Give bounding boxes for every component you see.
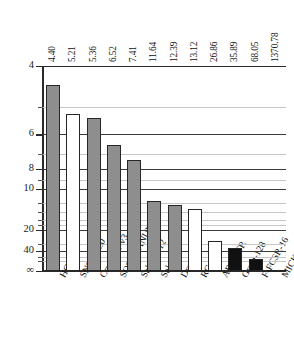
- value-label: 68.05: [250, 42, 260, 62]
- y-tick-major: [36, 271, 43, 272]
- y-tick-minor: [38, 180, 43, 181]
- bar-dragon: [168, 205, 182, 271]
- bar-sosemanuk: [107, 145, 121, 271]
- y-tick-minor: [38, 212, 43, 213]
- y-axis-tick-label: 6: [0, 127, 34, 138]
- value-label: 5.36: [88, 46, 98, 62]
- value-label: 1370.78: [270, 32, 280, 62]
- y-axis-tick-label: 4: [0, 59, 34, 70]
- bar-chart-figure: 4.405.215.366.527.4111.6412.3913.1226.86…: [0, 0, 294, 348]
- bar-grain-128: [228, 248, 242, 271]
- y-tick-major: [36, 169, 43, 170]
- y-tick-minor: [38, 244, 43, 245]
- y-tick-major: [36, 230, 43, 231]
- y-axis-tick-label: 8: [0, 162, 34, 173]
- value-label: 11.64: [148, 42, 158, 62]
- value-label: 35.89: [229, 42, 239, 62]
- value-label: 12.39: [169, 42, 179, 62]
- y-tick-minor: [38, 257, 43, 258]
- value-label-row: 4.405.215.366.527.4111.6412.3913.1226.86…: [0, 0, 294, 66]
- bar-cryptmt-v3: [87, 118, 101, 271]
- y-axis-tick-label: 10: [0, 182, 34, 193]
- y-tick-major: [36, 251, 43, 252]
- value-label: 7.41: [128, 46, 138, 62]
- value-label: 5.21: [67, 46, 77, 62]
- bar-aes-ctr: [208, 241, 222, 272]
- value-label: 26.86: [209, 42, 219, 62]
- y-tick-major: [36, 189, 43, 190]
- y-tick-major: [36, 134, 43, 135]
- bar-mickey-128: [269, 270, 283, 272]
- bar-f-fcsr-16: [249, 259, 263, 271]
- y-tick-minor: [38, 261, 43, 262]
- y-tick-major: [36, 66, 43, 67]
- bar-salsa20: [147, 201, 161, 271]
- bar-salsa20-12: [127, 160, 141, 271]
- value-label: 13.12: [189, 42, 199, 62]
- value-label: 6.52: [108, 46, 118, 62]
- y-tick-minor: [38, 107, 43, 108]
- gridline-minor: [43, 107, 286, 108]
- bar-hc-256: [46, 85, 60, 271]
- y-axis-tick-label: ∞: [0, 264, 34, 275]
- y-tick-minor: [38, 154, 43, 155]
- bar-snow-2-0: [66, 114, 80, 271]
- y-tick-minor: [38, 203, 43, 204]
- category-label-row: HC-256SNOW-2.0CryptMT-v3SOSEMANUKSalsa20…: [0, 271, 294, 348]
- y-axis-tick-label: 20: [0, 223, 34, 234]
- bar-rc4: [188, 209, 202, 272]
- y-tick-minor: [38, 220, 43, 221]
- value-label: 4.40: [47, 46, 57, 62]
- y-tick-minor: [38, 225, 43, 226]
- y-axis-tick-label: 40: [0, 244, 34, 255]
